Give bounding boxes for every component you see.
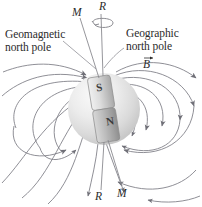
leader-lines xyxy=(63,41,124,69)
field-vector-label-group: B xyxy=(143,58,150,71)
magnetic-axis-top-label: M xyxy=(72,6,82,19)
geographic-north-pole-label: Geographic north pole xyxy=(126,27,179,53)
vector-arrow-icon xyxy=(143,55,155,60)
rotation-arrow-icon xyxy=(92,18,113,27)
magnetic-axis-bottom-label: M xyxy=(117,187,127,200)
geomagnetic-north-pole-label: Geomagnetic north pole xyxy=(5,28,65,54)
rotation-axis-top-label: R xyxy=(99,0,106,13)
magnet-north-pole-letter: N xyxy=(105,114,115,127)
rotation-axis-bottom-label: R xyxy=(95,190,102,203)
earth-magnetic-field-figure: Geomagnetic north pole Geographic north … xyxy=(0,0,202,207)
